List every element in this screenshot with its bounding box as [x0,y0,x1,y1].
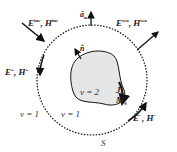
scattered-field-label: Esca, Hsca [115,18,147,28]
region-outer-right-label: v = 1 [61,109,80,119]
exterior-field-left-label: E+, H+ [4,67,28,77]
region-inner-label: v = 2 [80,87,100,97]
inner-normal-label: n̂ [80,44,85,53]
surface-s-label: S [101,138,106,148]
scattered-arrow [137,32,158,50]
outer-normal-label: ân [80,10,87,20]
scattering-diagram: Einc, Hinc Esca, Hsca E+, H+ E−, H− ân n… [0,0,177,152]
region-outer-left-label: v = 1 [20,109,39,119]
incident-field-label: Einc, Hinc [27,18,59,28]
exterior-field-right-label: E−, H− [132,113,156,123]
